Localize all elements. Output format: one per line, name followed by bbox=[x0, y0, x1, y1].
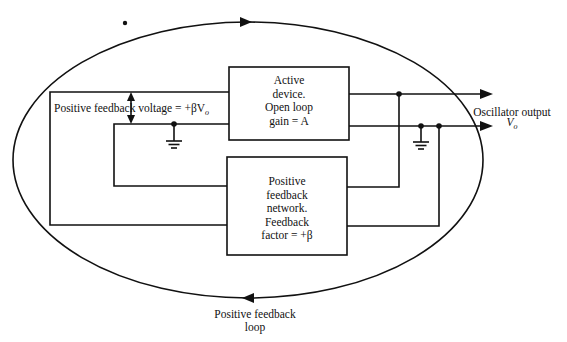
tap-top-to-feedback bbox=[347, 94, 399, 187]
feedback-voltage-text: Positive feedback voltage = +βV bbox=[54, 102, 205, 114]
output-symbol-subscript: o bbox=[514, 122, 518, 131]
feedback-network-line-2: feedback bbox=[227, 189, 347, 203]
double-arrow-up-head bbox=[127, 92, 135, 101]
output-symbol-v: V bbox=[506, 116, 513, 128]
ground-icon bbox=[166, 124, 182, 148]
positive-feedback-loop-label: Positive feedback loop bbox=[195, 308, 315, 334]
oscillator-output-label: Oscillator output Vo bbox=[457, 106, 567, 133]
feedback-loop-ellipse bbox=[13, 22, 483, 298]
diagram-canvas bbox=[0, 0, 567, 342]
feedback-voltage-label: Positive feedback voltage = +βVo bbox=[54, 102, 209, 119]
ground-icon bbox=[413, 126, 429, 149]
active-device-line-1: Active bbox=[229, 74, 349, 88]
active-device-label: Active device. Open loop gain = A bbox=[229, 74, 349, 128]
feedback-network-line-5: factor = +β bbox=[227, 229, 347, 243]
feedback-to-input-inner bbox=[114, 124, 229, 186]
junction-dot-icon bbox=[396, 91, 402, 97]
active-device-line-4: gain = A bbox=[229, 115, 349, 129]
loop-label-line-2: loop bbox=[195, 321, 315, 334]
loop-label-line-1: Positive feedback bbox=[195, 308, 315, 321]
tap-bottom-to-feedback bbox=[347, 126, 439, 226]
feedback-network-line-4: Feedback bbox=[227, 216, 347, 230]
feedback-network-label: Positive feedback network. Feedback fact… bbox=[227, 175, 347, 243]
arrow-right-icon bbox=[480, 89, 493, 99]
junction-dot-icon bbox=[418, 123, 424, 129]
feedback-voltage-subscript: o bbox=[205, 108, 209, 117]
active-device-line-2: device. bbox=[229, 88, 349, 102]
loop-arrow-left-icon bbox=[242, 293, 254, 303]
active-device-line-3: Open loop bbox=[229, 101, 349, 115]
feedback-network-line-3: network. bbox=[227, 202, 347, 216]
feedback-network-line-1: Positive bbox=[227, 175, 347, 189]
loop-arrow-right-icon bbox=[240, 17, 252, 27]
stray-dot bbox=[123, 21, 127, 25]
junction-dot-icon bbox=[436, 123, 442, 129]
junction-dot-icon bbox=[171, 121, 177, 127]
